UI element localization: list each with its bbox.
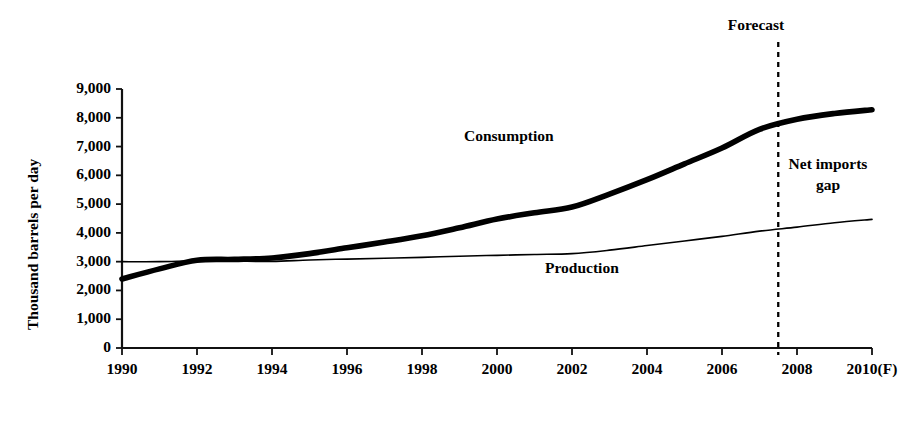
y-axis-tick-label: 7,000 — [37, 137, 111, 154]
chart-plot-area — [0, 0, 898, 422]
x-axis-tick-label: 2002 — [532, 360, 612, 377]
y-axis-tick-label: 2,000 — [37, 280, 111, 297]
y-axis-title: Thousand barrels per day — [24, 159, 41, 330]
net-imports-gap-label-line1: Net imports — [767, 155, 889, 172]
forecast-annotation-label: Forecast — [708, 16, 804, 33]
consumption-series-label: Consumption — [464, 127, 554, 144]
y-axis-tick-label: 8,000 — [37, 108, 111, 125]
y-axis-tick-label: 3,000 — [37, 252, 111, 269]
y-axis-tick-label: 5,000 — [37, 194, 111, 211]
y-axis-tick-label: 4,000 — [37, 223, 111, 240]
x-axis-tick-label: 2004 — [607, 360, 687, 377]
y-axis-tick-label: 0 — [37, 338, 111, 355]
x-axis-tick-label: 1992 — [157, 360, 237, 377]
x-axis-tick-label: 1996 — [307, 360, 387, 377]
chart-figure: Thousand barrels per day 01,0002,0003,00… — [0, 0, 898, 422]
net-imports-gap-label-line2: gap — [767, 176, 889, 193]
x-axis-tick-label: 2000 — [457, 360, 537, 377]
y-axis-tick-label: 9,000 — [37, 79, 111, 96]
x-axis-tick-label: 2006 — [682, 360, 762, 377]
y-axis-tick-label: 6,000 — [37, 165, 111, 182]
y-axis-tick-label: 1,000 — [37, 309, 111, 326]
x-axis-tick-label: 1990 — [82, 360, 162, 377]
production-line — [122, 219, 872, 261]
x-axis-tick-label: 1998 — [382, 360, 462, 377]
x-axis-tick-label: 1994 — [232, 360, 312, 377]
production-series-label: Production — [545, 259, 619, 276]
x-axis-tick-label: 2008 — [757, 360, 837, 377]
x-axis-tick-label: 2010(F) — [832, 360, 898, 377]
